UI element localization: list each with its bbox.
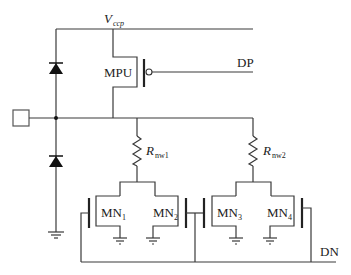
- mn2-subscript: 2: [174, 213, 178, 222]
- mn3-subscript: 3: [238, 213, 242, 222]
- rnw1-subscript: nw1: [155, 151, 169, 160]
- mn1-label: MN: [101, 205, 123, 220]
- dp-label: DP: [237, 55, 254, 70]
- resistor-rnw2-icon: [249, 136, 257, 182]
- ground-icon: [48, 232, 64, 238]
- mpu-transistor: [113, 29, 253, 118]
- mpu-label: MPU: [104, 65, 133, 80]
- mn2-label: MN: [153, 205, 175, 220]
- diode-upper-icon: [49, 63, 63, 74]
- vccp-subscript: ccp: [113, 19, 124, 28]
- ground-icon: [263, 238, 277, 244]
- diode-lower-icon: [49, 156, 63, 167]
- rnw2-label: R: [262, 143, 271, 158]
- rnw2-subscript: nw2: [272, 151, 286, 160]
- circuit-schematic: V ccp MPU DP R nw1 R nw2: [0, 0, 351, 275]
- mn4-label: MN: [267, 205, 289, 220]
- rnw1-label: R: [145, 143, 154, 158]
- resistor-rnw1-icon: [133, 118, 141, 182]
- mn1-mn2-block: [81, 182, 186, 262]
- io-pad: [13, 110, 29, 126]
- mn1-subscript: 1: [122, 213, 126, 222]
- ground-icon: [113, 238, 127, 244]
- ground-icon: [229, 238, 243, 244]
- pmos-bubble-icon: [146, 69, 152, 75]
- dn-label: DN: [320, 244, 339, 259]
- ground-icon: [146, 238, 160, 244]
- junction-dot: [54, 116, 58, 120]
- mn3-label: MN: [217, 205, 239, 220]
- mn3-mn4-block: [204, 182, 311, 262]
- mn4-subscript: 4: [288, 213, 292, 222]
